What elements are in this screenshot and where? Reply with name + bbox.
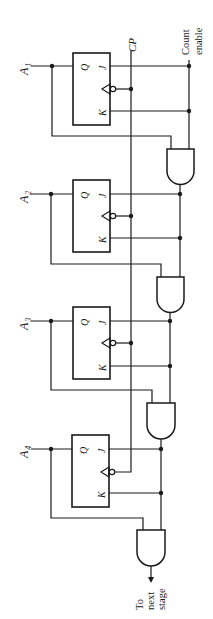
output-a1-label: A1 bbox=[17, 63, 33, 76]
inversion-bubble-icon bbox=[109, 469, 114, 474]
pin-j: J bbox=[97, 193, 108, 198]
output-label-1: To bbox=[134, 599, 145, 610]
pin-q: Q bbox=[79, 63, 90, 71]
pin-k: K bbox=[96, 490, 107, 499]
pin-q: Q bbox=[79, 318, 90, 326]
pin-k: K bbox=[97, 363, 108, 372]
inversion-bubble-icon bbox=[110, 340, 115, 345]
output-a4-label: A4 bbox=[17, 446, 33, 459]
counter-circuit: CP Count enable Q J K A1 Q J K A2 bbox=[0, 0, 213, 619]
and-gate-4 bbox=[137, 530, 165, 566]
output-a3-label: A3 bbox=[17, 318, 33, 331]
inversion-bubble-icon bbox=[110, 213, 115, 218]
and-gate-2 bbox=[157, 277, 184, 313]
count-enable-label-1: Count bbox=[180, 29, 191, 55]
output-label-2: next bbox=[145, 592, 156, 610]
output-label-3: stage bbox=[156, 588, 167, 610]
pin-j: J bbox=[97, 65, 108, 70]
flip-flop-1: Q J K bbox=[73, 53, 116, 125]
clock-label: CP bbox=[126, 38, 138, 52]
arrow-down-icon bbox=[148, 577, 154, 583]
count-enable-label-2: enable bbox=[193, 27, 204, 55]
pin-q: Q bbox=[79, 191, 90, 199]
inversion-bubble-icon bbox=[110, 86, 115, 91]
flip-flop-4: Q J K bbox=[72, 435, 115, 507]
pin-j: J bbox=[96, 448, 107, 453]
and-gate-1 bbox=[167, 149, 194, 185]
flip-flop-3: Q J K bbox=[73, 307, 116, 379]
pin-j: J bbox=[97, 320, 108, 325]
flip-flop-2: Q J K bbox=[73, 180, 116, 252]
output-a2-label: A2 bbox=[17, 191, 33, 204]
pin-q: Q bbox=[78, 446, 89, 454]
pin-k: K bbox=[97, 235, 108, 244]
and-gate-3 bbox=[147, 403, 175, 439]
pin-k: K bbox=[97, 108, 108, 117]
